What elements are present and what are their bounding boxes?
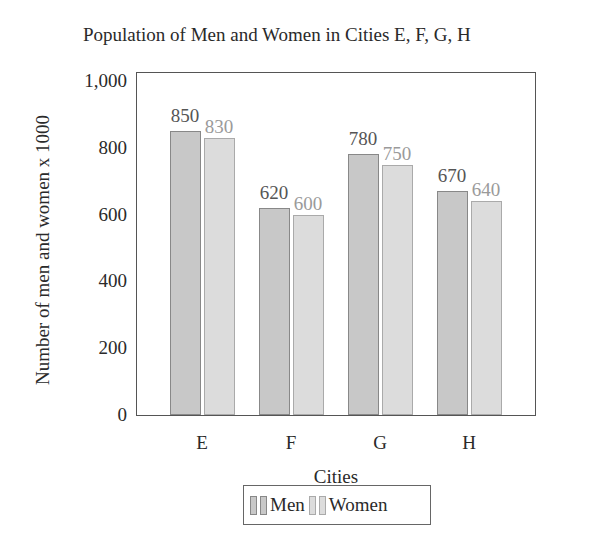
- y-tick-label: 1,000: [84, 70, 127, 92]
- y-tick-label: 400: [99, 270, 128, 292]
- bar-women-F: [293, 215, 324, 415]
- bar-women-E: [204, 138, 235, 415]
- legend: Men Women: [243, 485, 431, 525]
- y-axis-label: Number of men and women x 1000: [32, 115, 54, 385]
- chart-title: Population of Men and Women in Cities E,…: [0, 24, 589, 46]
- bar-men-F: [259, 208, 290, 415]
- bar-women-H: [471, 201, 502, 415]
- x-tick-label: E: [196, 432, 208, 454]
- y-tick-label: 800: [99, 137, 128, 159]
- legend-swatch-women: [309, 496, 316, 515]
- value-label-men-F: 620: [260, 182, 289, 204]
- x-tick-label: H: [462, 432, 476, 454]
- x-tick-label: F: [286, 432, 297, 454]
- y-tick-label: 0: [118, 404, 128, 426]
- legend-swatch-men: [250, 496, 257, 515]
- bar-men-E: [170, 131, 201, 415]
- value-label-men-H: 670: [438, 165, 467, 187]
- legend-label-men: Men: [270, 494, 305, 516]
- value-label-women-G: 750: [383, 143, 412, 165]
- bar-women-G: [382, 165, 413, 416]
- value-label-women-H: 640: [472, 179, 501, 201]
- value-label-women-E: 830: [205, 116, 234, 138]
- value-label-men-E: 850: [171, 105, 200, 127]
- y-tick-label: 600: [99, 204, 128, 226]
- legend-swatch-men: [260, 496, 267, 515]
- value-label-women-F: 600: [294, 193, 323, 215]
- legend-item-women: Women: [309, 494, 388, 516]
- bar-men-G: [348, 154, 379, 415]
- value-label-men-G: 780: [349, 128, 378, 150]
- legend-swatch-women: [319, 496, 326, 515]
- bar-men-H: [437, 191, 468, 415]
- legend-item-men: Men: [250, 494, 305, 516]
- x-tick-label: G: [373, 432, 387, 454]
- y-tick-label: 200: [99, 337, 128, 359]
- legend-label-women: Women: [329, 494, 388, 516]
